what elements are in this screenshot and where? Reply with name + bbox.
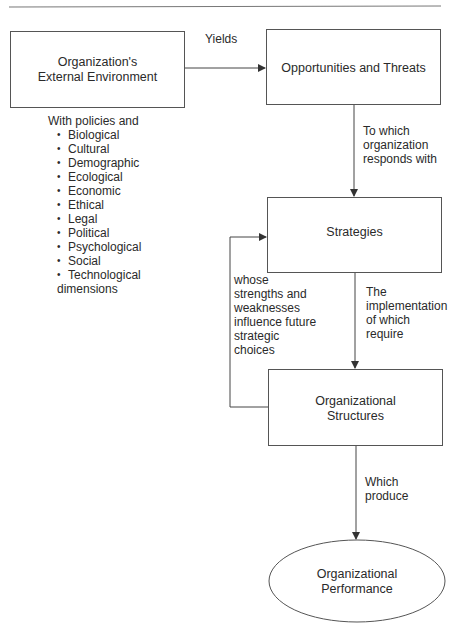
dimension-item: Psychological: [57, 240, 141, 254]
external-environment-box: Organization's External Environment: [10, 31, 185, 108]
feedback-line: whose: [234, 273, 316, 287]
dimension-item: Technological: [57, 268, 141, 282]
responds-line: organization: [363, 138, 437, 152]
yields-label: Yields: [205, 32, 237, 46]
dimension-item: Legal: [57, 212, 141, 226]
responds-line: To which: [363, 124, 437, 138]
implementation-label: The implementation of which require: [366, 285, 447, 341]
implementation-line: implementation: [366, 299, 447, 313]
dimension-item: Cultural: [57, 142, 141, 156]
responds-label: To which organization responds with: [363, 124, 437, 166]
performance-node: Organizational Performance: [269, 540, 445, 623]
external-environment-line2: External Environment: [38, 70, 158, 85]
performance-line2: Performance: [317, 582, 398, 597]
opportunities-threats-box: Opportunities and Threats: [266, 29, 441, 105]
environment-intro: With policies and: [48, 114, 141, 128]
environment-notes: With policies and Biological Cultural De…: [48, 114, 141, 296]
implementation-line: The: [366, 285, 447, 299]
feedback-line: weaknesses: [234, 301, 316, 315]
external-environment-line1: Organization's: [38, 55, 158, 70]
dimension-item: Demographic: [57, 156, 141, 170]
produce-line: Which: [365, 475, 408, 489]
opportunities-threats-label: Opportunities and Threats: [281, 61, 425, 76]
strategies-box: Strategies: [267, 197, 442, 273]
structures-box: Organizational Structures: [268, 369, 443, 446]
dimension-item: Ethical: [57, 198, 141, 212]
produce-label: Which produce: [365, 475, 408, 503]
structures-line1: Organizational: [315, 394, 396, 409]
strategies-label: Strategies: [326, 225, 382, 240]
dimension-item: Economic: [57, 184, 141, 198]
feedback-line: strategic: [234, 329, 316, 343]
implementation-line: require: [366, 327, 447, 341]
feedback-line: strengths and: [234, 287, 316, 301]
dimension-list: Biological Cultural Demographic Ecologic…: [57, 128, 141, 282]
responds-line: responds with: [363, 152, 437, 166]
implementation-line: of which: [366, 313, 447, 327]
feedback-line: influence future: [234, 315, 316, 329]
dimension-item: Political: [57, 226, 141, 240]
environment-outro: dimensions: [57, 282, 141, 296]
structures-line2: Structures: [315, 409, 396, 424]
feedback-line: choices: [234, 343, 316, 357]
dimension-item: Social: [57, 254, 141, 268]
produce-line: produce: [365, 489, 408, 503]
feedback-label: whose strengths and weaknesses influence…: [234, 273, 316, 357]
dimension-item: Biological: [57, 128, 141, 142]
dimension-item: Ecological: [57, 170, 141, 184]
top-rule: [9, 6, 441, 7]
performance-line1: Organizational: [317, 567, 398, 582]
